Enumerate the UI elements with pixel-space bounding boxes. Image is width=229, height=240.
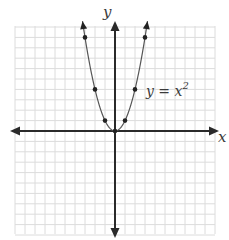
- coordinate-plane: y x y = x2: [0, 0, 229, 240]
- data-point: [93, 87, 98, 92]
- data-point: [133, 87, 138, 92]
- data-point: [123, 118, 128, 123]
- equation-label: y = x2: [145, 80, 189, 99]
- data-point: [103, 118, 108, 123]
- x-axis-label: x: [218, 128, 227, 146]
- y-axis-top-arrow-icon: [111, 21, 120, 31]
- y-axis-label: y: [102, 3, 112, 21]
- equation-exponent: 2: [181, 80, 188, 91]
- data-point: [113, 129, 118, 134]
- data-point: [83, 35, 88, 40]
- y-axis-bottom-arrow-icon: [111, 228, 120, 238]
- curve-arrow-icon: [143, 21, 150, 29]
- curve-arrow-icon: [80, 21, 87, 29]
- data-point: [143, 35, 148, 40]
- equation-base: y = x: [145, 83, 183, 99]
